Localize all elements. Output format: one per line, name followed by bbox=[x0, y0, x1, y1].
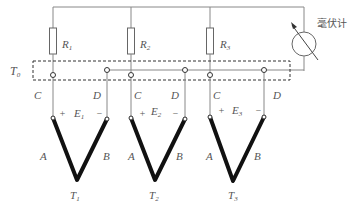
e3-label: E3 bbox=[231, 104, 243, 118]
minus1-label: − bbox=[96, 108, 103, 119]
thermocouple-2 bbox=[131, 118, 185, 180]
r3-label: R3 bbox=[219, 38, 231, 52]
minus2-label: − bbox=[172, 108, 179, 119]
plus1-label: + bbox=[59, 108, 66, 119]
t3-label: T3 bbox=[228, 189, 238, 203]
thermocouple-parallel-circuit-diagram: 毫伏计 T0 R1 R2 R3 C D + E1 − A B T1 C D + … bbox=[0, 0, 352, 210]
t2-label: T2 bbox=[149, 189, 159, 203]
thermocouple-1 bbox=[53, 118, 107, 180]
b3-label: B bbox=[254, 150, 261, 162]
c1-label: C bbox=[34, 89, 42, 101]
e1-label: E1 bbox=[73, 107, 84, 121]
a2-label: A bbox=[127, 150, 135, 162]
c2-label: C bbox=[134, 89, 142, 101]
top-wire bbox=[53, 7, 304, 32]
d3-label: D bbox=[272, 89, 281, 101]
c3-label: C bbox=[213, 89, 221, 101]
a3-label: A bbox=[205, 150, 213, 162]
resistor-r2 bbox=[128, 28, 135, 72]
e2-label: E2 bbox=[150, 105, 162, 119]
resistor-r1 bbox=[50, 28, 57, 72]
circuit-svg: 毫伏计 T0 R1 R2 R3 C D + E1 − A B T1 C D + … bbox=[0, 0, 352, 210]
b2-label: B bbox=[176, 150, 183, 162]
r1-label: R1 bbox=[61, 38, 72, 52]
r2-label: R2 bbox=[139, 38, 151, 52]
d1-label: D bbox=[92, 89, 101, 101]
meter-label: 毫伏计 bbox=[317, 17, 347, 29]
plus3-label: + bbox=[218, 105, 225, 116]
b1-label: B bbox=[103, 150, 110, 162]
t0-label: T0 bbox=[10, 64, 21, 79]
resistor-r3 bbox=[207, 28, 214, 72]
thermocouple-3 bbox=[210, 117, 264, 181]
d2-label: D bbox=[170, 89, 179, 101]
plus2-label: + bbox=[139, 108, 146, 119]
minus3-label: − bbox=[255, 105, 262, 116]
a1-label: A bbox=[39, 150, 47, 162]
t1-label: T1 bbox=[70, 189, 80, 203]
